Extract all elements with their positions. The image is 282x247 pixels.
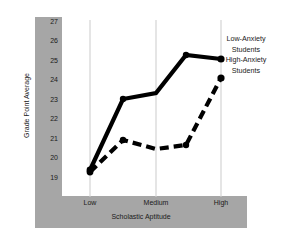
x-axis-title: Scholastic Aptitude: [35, 213, 247, 220]
x-tick-label-medium: Medium: [130, 199, 182, 206]
data-point-marker: [87, 169, 94, 176]
chart-legend: Low-Anxiety Students High-Anxiety Studen…: [210, 34, 282, 76]
legend-entry-low-anxiety-line1: Low-Anxiety: [210, 34, 282, 45]
legend-entry-high-anxiety-line1: High-Anxiety: [210, 55, 282, 66]
chart-figure: 27 26 25 24 23 22 21 20 19 Grade Point A…: [0, 0, 282, 247]
data-point-marker: [120, 96, 126, 102]
legend-entry-low-anxiety-line2: Students: [210, 45, 282, 56]
x-tick-label-high: High: [195, 199, 247, 206]
data-point-marker: [120, 137, 126, 143]
data-point-marker: [183, 52, 189, 58]
legend-entry-high-anxiety-line2: Students: [210, 66, 282, 77]
data-point-marker: [183, 142, 189, 148]
x-tick-label-low: Low: [64, 199, 116, 206]
